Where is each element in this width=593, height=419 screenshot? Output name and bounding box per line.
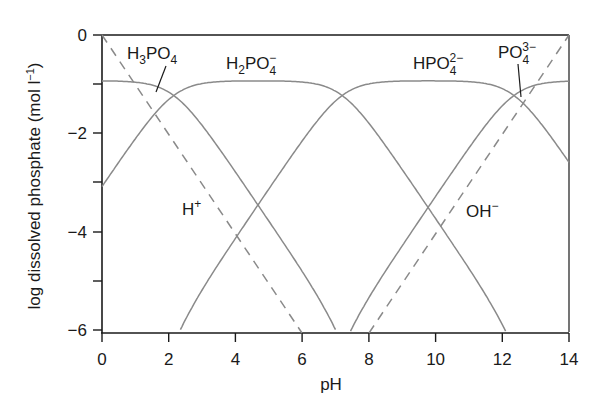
- curve-hpo4: [180, 81, 569, 330]
- x-tick-8: 8: [364, 350, 373, 369]
- x-tick-4: 4: [231, 350, 240, 369]
- y-tick-0: 0: [78, 26, 87, 45]
- y-ticks: [93, 35, 102, 330]
- curve-h3po4: [102, 81, 336, 330]
- label-oh-minus: OH−: [466, 199, 499, 221]
- label-po4: PO43−: [498, 40, 536, 67]
- x-ticks: [102, 333, 569, 342]
- curves: [102, 35, 569, 333]
- x-tick-10: 10: [426, 350, 445, 369]
- label-hpo4: HPO42−: [413, 51, 463, 78]
- label-h2po4: H2PO4−: [226, 51, 277, 78]
- curve-oh-minus: [369, 35, 569, 333]
- label-h-plus: H+: [182, 197, 201, 219]
- y-tick-minus6: −6: [68, 321, 87, 340]
- x-tick-6: 6: [297, 350, 306, 369]
- y-axis-label: log dissolved phosphate (mol l−1): [24, 63, 44, 310]
- curve-h2po4: [102, 81, 506, 331]
- x-axis-label: pH: [320, 375, 342, 394]
- y-tick-minus4: −4: [68, 223, 87, 242]
- plot-frame: [101, 35, 569, 333]
- x-tick-0: 0: [97, 350, 106, 369]
- phosphate-speciation-chart: 0 −2 −4 −6 0 2 4 6 8 10 12 14 pH log dis…: [0, 0, 593, 419]
- y-tick-labels: 0 −2 −4 −6: [68, 26, 87, 340]
- x-tick-labels: 0 2 4 6 8 10 12 14: [97, 350, 578, 369]
- label-h3po4: H3PO4: [127, 44, 178, 67]
- x-tick-2: 2: [164, 350, 173, 369]
- x-tick-14: 14: [560, 350, 579, 369]
- x-tick-12: 12: [493, 350, 512, 369]
- y-tick-minus2: −2: [68, 124, 87, 143]
